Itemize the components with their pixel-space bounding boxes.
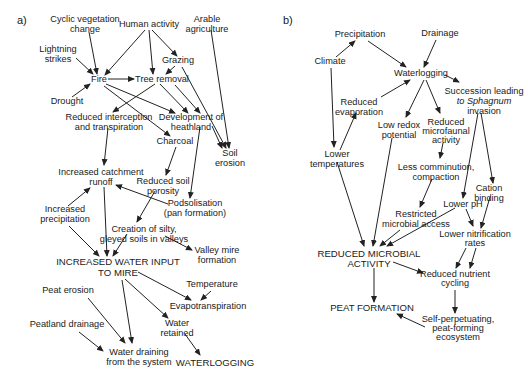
node-catchment-runoff: Increased catchmentrunoff [58, 167, 144, 187]
node-reduced-porosity: Reduced soilporosity [136, 176, 189, 196]
node-silty-soils: Creation of silty,gleyed soils in valley… [100, 224, 189, 244]
node-precipitation: Precipitation [335, 29, 386, 39]
node-drainage: Drainage [421, 28, 458, 38]
node-lower-temperatures: Lowertemperatures [310, 149, 365, 169]
node-less-comminution: Less comminution,compaction [398, 162, 475, 182]
node-human-activity: Human activity [119, 19, 180, 29]
node-drought: Drought [51, 96, 84, 106]
node-increased-precipitation: Increasedprecipitation [40, 204, 90, 224]
node-low-redox: Low redoxpotential [378, 120, 421, 140]
node-grazing: Grazing [162, 55, 194, 65]
node-reduced-microfaunal: Reducedmicrofaunalactivity [422, 117, 470, 145]
node-podsolisation: Podsolisation(pan formation) [164, 198, 226, 218]
panel-a-nodes: Cyclic vegetationchange Human activity A… [30, 14, 254, 368]
node-reduced-evaporation: Reducedevaporation [335, 97, 383, 117]
node-water-draining: Water drainingfrom the system [106, 347, 172, 367]
node-tree-removal: Tree removal [135, 74, 189, 84]
node-peat-erosion: Peat erosion [42, 285, 94, 295]
node-waterlogging-a: WATERLOGGING [176, 357, 254, 368]
node-temperature: Temperature [186, 279, 238, 289]
node-self-perpetuating: Self-perpetuating,peat-formingecosystem [422, 314, 495, 342]
node-lightning-strikes: Lightningstrikes [39, 44, 76, 64]
node-valley-mire: Valley mireformation [195, 245, 240, 265]
node-evapotranspiration: Evapotranspiration [170, 301, 247, 311]
panel-b-label: b) [283, 14, 293, 26]
panel-a-label: a) [17, 14, 27, 26]
node-peat-formation: PEAT FORMATION [330, 302, 414, 313]
node-arable-agriculture: Arableagriculture [186, 14, 229, 34]
node-charcoal: Charcoal [157, 136, 194, 146]
node-sphagnum-succession: Succession leadingto Sphagnuminvasion [444, 86, 523, 116]
node-waterlogging-b: Waterlogging [394, 68, 448, 78]
node-increased-water-input: INCREASED WATER INPUTTO MIRE [56, 256, 180, 278]
node-fire: Fire [91, 74, 107, 84]
node-water-retained: Waterretained [160, 318, 193, 338]
node-reduced-interception: Reduced interceptionand transpiration [66, 112, 153, 132]
node-peatland-drainage: Peatland drainage [30, 319, 105, 329]
node-climate: Climate [314, 56, 345, 66]
node-reduced-microbial-activity: REDUCED MICROBIALACTIVITY [318, 248, 422, 269]
diagram-canvas: a) b) [0, 0, 528, 380]
node-reduced-nutrient-cycling: Reduced nutrientcycling [420, 269, 490, 288]
node-lower-nitrification: Lower nitrificationrates [439, 229, 511, 248]
panel-b-nodes: Precipitation Drainage Climate Waterlogg… [310, 28, 524, 342]
node-cyclic-vegetation: Cyclic vegetationchange [50, 14, 119, 34]
node-soil-erosion: Soilerosion [215, 148, 245, 168]
node-restricted-access: Restrictedmicrobial access [382, 209, 450, 229]
node-lower-ph: Lower pH [443, 199, 482, 209]
